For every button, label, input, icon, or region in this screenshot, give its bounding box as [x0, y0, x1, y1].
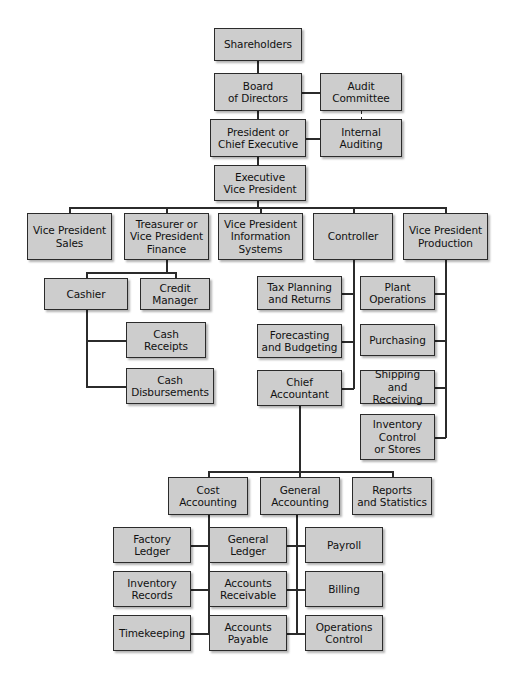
node-internal-auditing[interactable]: Internal Auditing [320, 119, 402, 157]
connector-stub-inventory-records [191, 589, 209, 591]
node-plant-operations[interactable]: Plant Operations [360, 276, 435, 310]
connector-controller-down [353, 260, 355, 389]
node-cash-receipts[interactable]: Cash Receipts [126, 322, 206, 358]
connector-president-internal [306, 138, 321, 140]
node-timekeeping[interactable]: Timekeeping [113, 615, 191, 651]
connector-treasurer-bus [86, 272, 176, 274]
connector-stub-factory-ledger [191, 545, 209, 547]
connector-stub-chief-accountant [341, 388, 354, 390]
node-credit-manager[interactable]: Credit Manager [140, 278, 210, 310]
connector-stub-forecasting [341, 341, 354, 343]
node-chief-accountant[interactable]: Chief Accountant [257, 370, 342, 406]
connector-stub-accounts-payable [287, 633, 306, 635]
node-cost-accounting[interactable]: Cost Accounting [168, 477, 248, 515]
connector-stub-cash-receipts [86, 340, 127, 342]
node-billing[interactable]: Billing [305, 571, 383, 607]
connector-stub-general-ledger [287, 545, 306, 547]
node-controller[interactable]: Controller [313, 213, 393, 260]
connector-stub-accounts-receivable [287, 589, 306, 591]
node-purchasing[interactable]: Purchasing [360, 324, 435, 356]
node-general-accounting[interactable]: General Accounting [260, 477, 340, 515]
node-inventory-records[interactable]: Inventory Records [113, 571, 191, 607]
connector-production-down [445, 260, 447, 438]
node-cashier[interactable]: Cashier [44, 278, 128, 310]
node-vice-president-information-systems[interactable]: Vice President Information Systems [218, 213, 303, 260]
node-accounts-receivable[interactable]: Accounts Receivable [209, 571, 287, 607]
connector-stub-inventory-control [434, 437, 446, 439]
node-vice-president-sales[interactable]: Vice President Sales [27, 213, 112, 260]
node-shareholders[interactable]: Shareholders [214, 28, 302, 61]
node-reports-and-statistics[interactable]: Reports and Statistics [352, 477, 432, 515]
node-tax-planning-and-returns[interactable]: Tax Planning and Returns [257, 276, 342, 310]
connector-general-accounting-down [296, 515, 298, 634]
node-inventory-control-or-stores[interactable]: Inventory Control or Stores [360, 414, 435, 460]
node-board-of-directors[interactable]: Board of Directors [214, 73, 302, 111]
node-audit-committee[interactable]: Audit Committee [320, 73, 402, 111]
connector-stub-tax-planning [341, 293, 354, 295]
connector-shareholders-board [257, 61, 259, 73]
connector-chief-accountant-down [299, 406, 301, 472]
connector-stub-cash-disbursements [86, 386, 127, 388]
connector-board-audit [302, 92, 321, 94]
connector-vp-horizontal-bus [69, 207, 447, 209]
connector-stub-timekeeping [191, 633, 209, 635]
org-chart-canvas: Shareholders Board of Directors Audit Co… [0, 0, 508, 686]
node-president-chief-executive[interactable]: President or Chief Executive [210, 119, 306, 157]
node-forecasting-and-budgeting[interactable]: Forecasting and Budgeting [257, 324, 342, 358]
connector-stub-plant-operations [434, 293, 446, 295]
connector-stub-shipping-receiving [434, 387, 446, 389]
node-accounts-payable[interactable]: Accounts Payable [209, 615, 287, 651]
node-cash-disbursements[interactable]: Cash Disbursements [126, 368, 214, 404]
node-factory-ledger[interactable]: Factory Ledger [113, 527, 191, 563]
node-payroll[interactable]: Payroll [305, 527, 383, 563]
connector-stub-purchasing [434, 340, 446, 342]
node-operations-control[interactable]: Operations Control [305, 615, 383, 651]
connector-accounting-bus [208, 471, 393, 473]
node-vice-president-production[interactable]: Vice President Production [403, 213, 488, 260]
node-shipping-and-receiving[interactable]: Shipping and Receiving [360, 370, 435, 404]
node-treasurer-vice-president-finance[interactable]: Treasurer or Vice President Finance [124, 213, 209, 260]
connector-cashier-down [86, 310, 88, 388]
node-executive-vice-president[interactable]: Executive Vice President [214, 165, 306, 201]
node-general-ledger[interactable]: General Ledger [209, 527, 287, 563]
